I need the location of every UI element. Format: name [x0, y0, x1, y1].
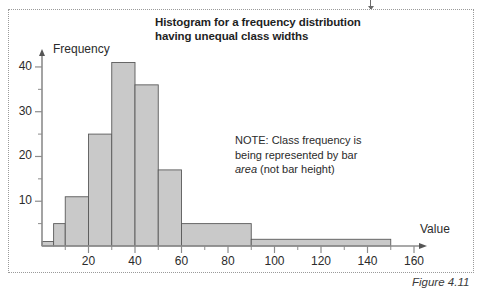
- note-emphasis: area: [235, 163, 257, 175]
- x-tick-label: 40: [121, 254, 149, 268]
- x-tick-label: 160: [400, 254, 428, 268]
- x-tick-label: 80: [214, 254, 242, 268]
- x-axis-title: Value: [420, 222, 450, 236]
- y-tick-label: 20: [8, 148, 32, 162]
- figure-caption: Figure 4.11: [412, 276, 469, 288]
- chart-title-line1: Histogram for a frequency distribution: [155, 16, 361, 28]
- y-axis-arrow-icon: [39, 49, 45, 56]
- x-tick-label: 100: [261, 254, 289, 268]
- chart-title: Histogram for a frequency distribution h…: [155, 16, 445, 43]
- note-annotation: NOTE: Class frequency is being represent…: [235, 133, 410, 177]
- x-tick-label: 60: [168, 254, 196, 268]
- histogram-bar: [89, 134, 112, 246]
- y-tick-label: 30: [8, 104, 32, 118]
- histogram-bar: [158, 170, 181, 246]
- note-line-3: (not bar height): [257, 163, 335, 175]
- histogram-bar: [54, 224, 66, 246]
- x-tick-label: 120: [307, 254, 335, 268]
- x-tick-label: 140: [354, 254, 382, 268]
- histogram-bar: [251, 239, 391, 246]
- x-tick-label: 20: [75, 254, 103, 268]
- note-line-1: NOTE: Class frequency is: [235, 134, 362, 146]
- histogram-bar: [65, 197, 88, 246]
- x-axis-arrow-icon: [419, 243, 427, 249]
- histogram-bar: [112, 62, 135, 246]
- y-tick-label: 10: [8, 193, 32, 207]
- chart-title-line2: having unequal class widths: [155, 30, 308, 42]
- page-marker-arrow-icon: [370, 0, 371, 9]
- histogram-bar: [182, 224, 252, 246]
- histogram-bar: [135, 85, 158, 246]
- y-axis-title: Frequency: [53, 42, 110, 56]
- y-tick-label: 40: [8, 59, 32, 73]
- note-line-2: being represented by bar: [235, 149, 357, 161]
